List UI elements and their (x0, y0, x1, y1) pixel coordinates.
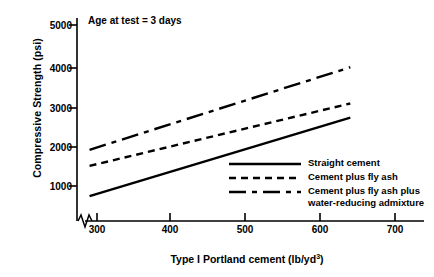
legend-item: Straight cement (229, 157, 424, 170)
chart-legend: Straight cement Cement plus fly ash Ceme… (229, 157, 424, 209)
chart-figure: Compressive Strength (psi) 5000 4000 300… (0, 0, 434, 277)
legend-label: Cement plus fly ash (308, 171, 398, 183)
series-line-cement-fly-ash-admixture (90, 67, 351, 150)
legend-key-dash-dot-icon (229, 186, 301, 198)
legend-key-dashed-icon (229, 172, 301, 184)
legend-label: Cement plus fly ash plus water-reducing … (308, 185, 424, 208)
plot-area (0, 0, 434, 277)
x-tick-marks (97, 213, 395, 221)
legend-item: Cement plus fly ash (229, 171, 424, 184)
y-tick-marks (69, 25, 77, 186)
legend-key-solid-icon (229, 158, 301, 170)
legend-label: Straight cement (308, 157, 380, 169)
legend-item: Cement plus fly ash plus water-reducing … (229, 185, 424, 208)
